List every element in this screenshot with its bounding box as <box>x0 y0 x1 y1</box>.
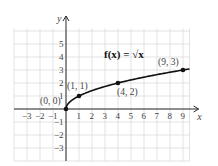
y-axis-label: y <box>56 13 62 24</box>
data-point <box>77 94 82 99</box>
data-point <box>116 81 121 86</box>
svg-text:8: 8 <box>168 111 173 121</box>
svg-text:4: 4 <box>59 52 64 62</box>
point-label: (0, 0) <box>40 96 61 107</box>
svg-text:2: 2 <box>59 78 64 88</box>
function-label: f(x) = √x <box>104 48 144 61</box>
svg-text:−3: −3 <box>22 111 32 121</box>
point-label: (1, 1) <box>67 81 88 92</box>
data-point <box>64 107 69 112</box>
x-axis-label: x <box>196 111 202 122</box>
svg-text:3: 3 <box>59 65 64 75</box>
svg-text:−1: −1 <box>54 117 64 127</box>
svg-text:9: 9 <box>181 111 186 121</box>
data-point <box>181 68 186 73</box>
point-label: (4, 2) <box>117 87 138 98</box>
point-label: (9, 3) <box>158 57 179 68</box>
svg-text:6: 6 <box>142 111 147 121</box>
svg-text:−3: −3 <box>54 143 64 153</box>
svg-text:7: 7 <box>155 111 160 121</box>
grid <box>14 28 190 161</box>
sqrt-function-graph: xy −3−2−112345678954321−1−2−3 (0, 0)(1, … <box>0 0 218 166</box>
svg-text:4: 4 <box>116 111 121 121</box>
svg-text:1: 1 <box>77 111 82 121</box>
svg-text:2: 2 <box>90 111 95 121</box>
axes: xy <box>14 13 202 161</box>
svg-text:3: 3 <box>103 111 108 121</box>
svg-text:5: 5 <box>59 39 64 49</box>
svg-text:5: 5 <box>129 111 134 121</box>
svg-text:−2: −2 <box>35 111 45 121</box>
svg-text:−2: −2 <box>54 130 64 140</box>
